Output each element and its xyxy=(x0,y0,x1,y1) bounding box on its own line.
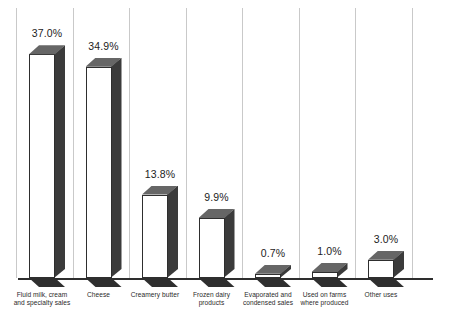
bar-front-face xyxy=(368,260,394,278)
bar-value-label: 34.9% xyxy=(64,41,144,52)
baseline-axis xyxy=(18,278,433,280)
plot-area: 37.0%Fluid milk, cream and specialty sal… xyxy=(0,0,450,324)
bar-category-label: Other uses xyxy=(343,291,419,299)
plot-gridline xyxy=(242,8,243,278)
bar-front-face xyxy=(86,67,112,278)
bar-value-label: 13.8% xyxy=(120,169,200,180)
plot-gridline xyxy=(16,8,17,278)
bar-value-label: 3.0% xyxy=(346,234,426,245)
bar-value-label: 1.0% xyxy=(290,246,370,257)
bar-value-label: 9.9% xyxy=(177,192,257,203)
plot-gridline xyxy=(186,8,187,278)
bar-side-face xyxy=(167,186,178,278)
bar-chart: 37.0%Fluid milk, cream and specialty sal… xyxy=(0,0,450,324)
bar-side-face xyxy=(111,58,122,278)
plot-gridline xyxy=(299,8,300,278)
bar-value-label: 37.0% xyxy=(7,28,87,39)
bar-side-face xyxy=(54,45,65,278)
bar-side-face xyxy=(224,209,235,278)
bar-front-face xyxy=(29,54,55,278)
bar-front-face xyxy=(199,218,225,278)
bar-front-face xyxy=(142,195,168,278)
